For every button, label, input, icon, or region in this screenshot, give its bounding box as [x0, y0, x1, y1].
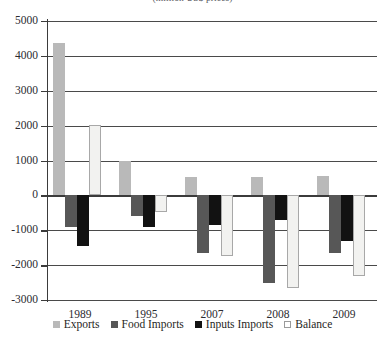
bar-2009-food-imports — [329, 195, 341, 253]
bar-1989-food-imports — [65, 195, 77, 226]
bar-2009-inputs-imports — [341, 195, 353, 240]
bar-1989-exports — [53, 43, 65, 196]
bar-2009-exports — [317, 176, 329, 195]
bar-group-1989 — [47, 21, 113, 300]
bar-2007-inputs-imports — [209, 195, 221, 225]
bar-1995-inputs-imports — [143, 195, 155, 226]
y-tick-label: -3000 — [11, 294, 38, 306]
legend-item-balance[interactable]: Balance — [284, 318, 332, 330]
bar-2008-exports — [251, 177, 263, 195]
legend-label: Balance — [295, 318, 332, 330]
y-tick-label: -1000 — [11, 225, 38, 237]
bar-2007-exports — [185, 177, 197, 195]
legend-item-inputs[interactable]: Inputs Imports — [195, 318, 273, 330]
bar-chart-figure: (million US$ prices) 5000400030002000100… — [0, 0, 385, 347]
legend-swatch-balance-icon — [284, 321, 291, 328]
y-tick-label: -2000 — [11, 259, 38, 271]
bar-1995-exports — [119, 161, 131, 196]
bar-2007-balance — [221, 195, 233, 256]
bar-1989-inputs-imports — [77, 195, 89, 246]
bar-2007-food-imports — [197, 195, 209, 253]
plot-area: 500040003000200010000-1000-2000-3000 198… — [47, 21, 377, 300]
bar-2008-balance — [287, 195, 299, 287]
y-tick-label: 2000 — [15, 120, 38, 132]
bar-2008-food-imports — [263, 195, 275, 282]
bar-group-2009 — [311, 21, 377, 300]
legend-label: Food Imports — [122, 318, 184, 330]
bar-group-2007 — [179, 21, 245, 300]
y-tick-label: 3000 — [15, 85, 38, 97]
bar-group-1995 — [113, 21, 179, 300]
bar-1995-balance — [155, 195, 167, 212]
y-tick-label: 0 — [32, 190, 38, 202]
bar-2009-balance — [353, 195, 365, 275]
gridline--3000 — [47, 300, 377, 301]
legend-label: Inputs Imports — [206, 318, 273, 330]
legend-swatch-exports-icon — [53, 321, 60, 328]
bar-2008-inputs-imports — [275, 195, 287, 219]
legend-label: Exports — [64, 318, 100, 330]
legend-swatch-food-icon — [111, 321, 118, 328]
legend-swatch-inputs-icon — [195, 321, 202, 328]
y-tick--3000 — [41, 300, 48, 301]
y-tick-label: 4000 — [15, 50, 38, 62]
chart-caption: (million US$ prices) — [0, 0, 385, 7]
chart-legend: ExportsFood ImportsInputs ImportsBalance — [0, 318, 385, 330]
legend-item-food[interactable]: Food Imports — [111, 318, 184, 330]
y-tick-label: 1000 — [15, 155, 38, 167]
legend-item-exports[interactable]: Exports — [53, 318, 100, 330]
bar-group-2008 — [245, 21, 311, 300]
bar-1989-balance — [89, 125, 101, 196]
bar-1995-food-imports — [131, 195, 143, 216]
y-tick-label: 5000 — [15, 15, 38, 27]
